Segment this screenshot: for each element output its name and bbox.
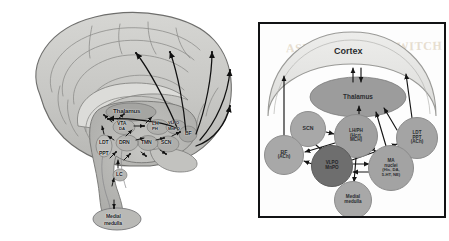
node-vlpo-mnpo-label-2: MnPO	[324, 166, 339, 171]
node-medial-medulla: Medial medulla	[334, 181, 372, 216]
node-ldt-ppt-label-3: (ACh)	[410, 140, 425, 145]
cortex-label: Cortex	[334, 46, 363, 56]
brain-label-ppt: PPT	[99, 151, 108, 156]
brain-label-ldt: LDT	[99, 140, 108, 145]
brain-label-lc: LC	[116, 172, 122, 177]
node-vlpo-mnpo: VLPO MnPO	[311, 145, 353, 187]
node-scn-label: SCN	[302, 126, 315, 131]
brain-label-tmn: TMN	[141, 140, 151, 145]
brain-label-scn: SCN	[161, 140, 171, 145]
brain-label-bf: BF	[185, 131, 191, 136]
node-ma-nuclei-label-4: 5-HT, NE)	[381, 173, 401, 177]
brain-label-da: DA	[119, 127, 125, 131]
brain-label-mnpo: MnPO	[168, 127, 180, 131]
sagittal-brain-panel: Thalamus VTA DA LH PH VLPO MnPO BF LDT P…	[0, 0, 255, 241]
brain-label-ph: PH	[152, 127, 158, 131]
node-bf-label-2: (ACh)	[277, 155, 292, 160]
brain-label-drn: DRN	[119, 140, 129, 145]
node-ma-nuclei: MA nuclei (His, DA, 5-HT, NE)	[368, 145, 414, 191]
network-diagram-panel: ASLEEP AT THE SWITCH	[258, 22, 446, 218]
node-bf: BF (ACh)	[264, 135, 304, 175]
brain-illustration	[0, 0, 255, 241]
brain-label-thalamus: Thalamus	[113, 108, 140, 114]
brain-label-medial-medulla-1: Medial	[106, 214, 121, 219]
node-thalamus: Thalamus	[310, 77, 406, 117]
node-thalamus-label: Thalamus	[342, 94, 374, 101]
node-medial-medulla-label-2: medulla	[343, 200, 362, 205]
brain-label-medial-medulla-2: medulla	[104, 221, 122, 226]
brain-label-vlpo: VLPO	[168, 121, 179, 125]
node-lh-ph-label-3: MCH)	[349, 138, 363, 143]
figure-root: Thalamus VTA DA LH PH VLPO MnPO BF LDT P…	[0, 0, 449, 241]
